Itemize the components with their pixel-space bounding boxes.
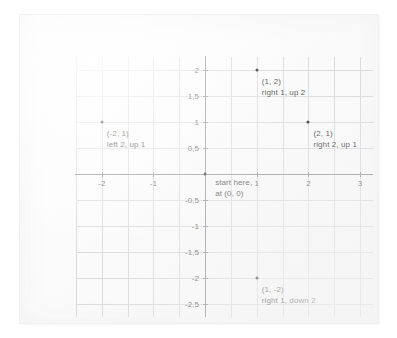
paper-sheet: -2-112321,510,5-0,5-1-1,5-2-2,5 start he… <box>20 15 378 323</box>
point-annotation: (1, 2)right 1, up 2 <box>262 76 306 98</box>
y-tick-mark <box>203 148 208 149</box>
data-point <box>204 173 207 176</box>
x-tick-mark <box>360 172 361 177</box>
y-tick-label: -0,5 <box>175 196 199 205</box>
data-point <box>307 121 310 124</box>
y-tick-label: -2 <box>175 274 199 283</box>
annotation-line: at (0, 0) <box>215 188 252 199</box>
y-tick-label: 1,5 <box>175 92 199 101</box>
annotation-line: (2, 1) <box>313 128 357 139</box>
screenshot-page: -2-112321,510,5-0,5-1-1,5-2-2,5 start he… <box>0 0 397 338</box>
point-annotation: (2, 1)right 2, up 1 <box>313 128 357 150</box>
y-tick-mark <box>203 278 208 279</box>
annotation-line: right 1, up 2 <box>262 87 306 98</box>
y-tick-label: -2,5 <box>175 300 199 309</box>
y-tick-mark <box>203 226 208 227</box>
point-annotation: (-2, 1)left 2, up 1 <box>107 128 146 150</box>
annotation-line: left 2, up 1 <box>107 139 146 150</box>
y-tick-mark <box>203 122 208 123</box>
data-point <box>255 277 258 280</box>
annotation-line: start here, <box>215 177 252 188</box>
x-tick-label: -1 <box>150 179 157 188</box>
x-tick-mark <box>257 172 258 177</box>
gridline-horizontal <box>76 304 373 305</box>
y-tick-mark <box>203 70 208 71</box>
y-tick-mark <box>203 252 208 253</box>
gridline-horizontal <box>76 70 373 71</box>
x-tick-mark <box>153 172 154 177</box>
x-tick-mark <box>308 172 309 177</box>
gridline-horizontal <box>76 252 373 253</box>
gridline-horizontal <box>76 122 373 123</box>
x-tick-label: 1 <box>254 179 259 188</box>
point-annotation: (1, -2)right 1, down 2 <box>262 284 316 306</box>
x-tick-label: 2 <box>306 179 311 188</box>
x-axis <box>75 174 373 175</box>
annotation-line: right 1, down 2 <box>262 295 316 306</box>
y-tick-label: -1,5 <box>175 248 199 257</box>
y-tick-label: 1 <box>175 118 199 127</box>
y-tick-mark <box>203 96 208 97</box>
x-tick-label: -2 <box>98 179 105 188</box>
gridline-horizontal <box>76 278 373 279</box>
gridline-horizontal <box>76 226 373 227</box>
y-tick-label: 0,5 <box>175 144 199 153</box>
y-tick-label: 2 <box>175 66 199 75</box>
y-tick-mark <box>203 304 208 305</box>
y-tick-label: -1 <box>175 222 199 231</box>
annotation-line: (-2, 1) <box>107 128 146 139</box>
annotation-line: (1, -2) <box>262 284 316 295</box>
annotation-line: (1, 2) <box>262 76 306 87</box>
point-annotation: start here,at (0, 0) <box>215 177 252 199</box>
x-tick-mark <box>102 172 103 177</box>
annotation-line: right 2, up 1 <box>313 139 357 150</box>
y-tick-mark <box>203 200 208 201</box>
x-tick-label: 3 <box>358 179 363 188</box>
gridline-horizontal <box>76 96 373 97</box>
data-point <box>255 69 258 72</box>
gridline-horizontal <box>76 200 373 201</box>
coordinate-plane: -2-112321,510,5-0,5-1-1,5-2-2,5 start he… <box>76 57 373 317</box>
data-point <box>100 121 103 124</box>
